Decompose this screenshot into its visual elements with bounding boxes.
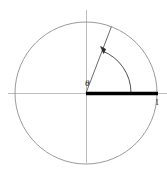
unit-circle-diagram bbox=[0, 0, 167, 171]
terminal-side-ray bbox=[86, 27, 111, 93]
angle-theta-label: θ bbox=[85, 79, 89, 88]
unit-circle-figure: θ 1 bbox=[0, 0, 167, 171]
angle-arc bbox=[102, 51, 131, 93]
radius-length-label: 1 bbox=[155, 99, 159, 107]
